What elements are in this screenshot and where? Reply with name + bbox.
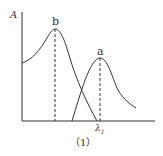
figure-caption: （1） [70,138,96,148]
absorption-spectrum-diagram [0,0,163,156]
peak-b-label: b [52,16,59,27]
curve-a [72,58,136,121]
lambda-1-label: λ1 [95,124,105,135]
y-axis-label: A [10,10,17,20]
lambda-subscript: 1 [101,128,105,135]
peak-a-label: a [97,46,104,57]
curve-b [22,29,97,121]
